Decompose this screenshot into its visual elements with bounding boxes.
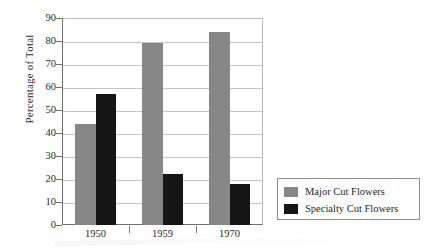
bar-1950-specialty xyxy=(96,94,117,225)
legend-item-major: Major Cut Flowers xyxy=(284,184,419,200)
x-axis-tick-label: 1950 xyxy=(71,228,121,240)
legend-label: Major Cut Flowers xyxy=(305,186,385,198)
y-axis-tick-label: 20 xyxy=(26,174,56,185)
x-axis-tick-label: 1959 xyxy=(138,228,188,240)
y-axis-tick-label: 80 xyxy=(26,36,56,47)
bar-1959-specialty xyxy=(163,174,184,225)
chart-legend: Major Cut FlowersSpecialty Cut Flowers xyxy=(277,178,420,220)
y-axis-tick-label: 0 xyxy=(26,220,56,231)
bar-1959-major xyxy=(142,43,163,225)
legend-swatch-major xyxy=(284,187,298,197)
y-axis-tick-label: 40 xyxy=(26,128,56,139)
y-axis-tick-label: 50 xyxy=(26,105,56,116)
legend-label: Specialty Cut Flowers xyxy=(305,203,398,215)
y-axis-tick-label: 30 xyxy=(26,151,56,162)
y-axis-tick-mark xyxy=(56,225,62,226)
legend-item-specialty: Specialty Cut Flowers xyxy=(284,201,419,217)
y-axis-tick-label: 10 xyxy=(26,197,56,208)
bar-1970-specialty xyxy=(230,184,251,225)
x-axis-separator-tick xyxy=(196,226,197,233)
y-axis-tick-label: 70 xyxy=(26,59,56,70)
legend-swatch-specialty xyxy=(284,204,298,214)
y-axis-tick-labels: 9080706050403020100 xyxy=(26,0,56,248)
y-axis-tick-label: 90 xyxy=(26,13,56,24)
x-axis-separator-tick xyxy=(129,226,130,233)
bar-1970-major xyxy=(209,32,230,225)
y-axis-tick-label: 60 xyxy=(26,82,56,93)
bar-1950-major xyxy=(75,124,96,225)
bars-layer xyxy=(62,18,263,225)
